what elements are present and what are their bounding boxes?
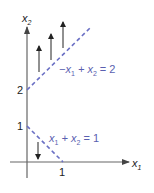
- x-tick-1: 1: [59, 166, 65, 178]
- y-tick-1: 1: [17, 120, 23, 132]
- x-axis-label: x1: [131, 157, 142, 171]
- equation-upper: −x1 + x2 = 2: [59, 63, 115, 77]
- constraint-line-upper: [27, 28, 90, 90]
- equation-lower: x1 + x2 = 1: [48, 132, 99, 146]
- y-tick-2: 2: [17, 84, 23, 96]
- y-axis-label: x2: [21, 12, 32, 26]
- feasible-region-diagram: x2 x1 2 1 1 −x1 + x2 = 2 x1 + x2 = 1: [0, 0, 154, 193]
